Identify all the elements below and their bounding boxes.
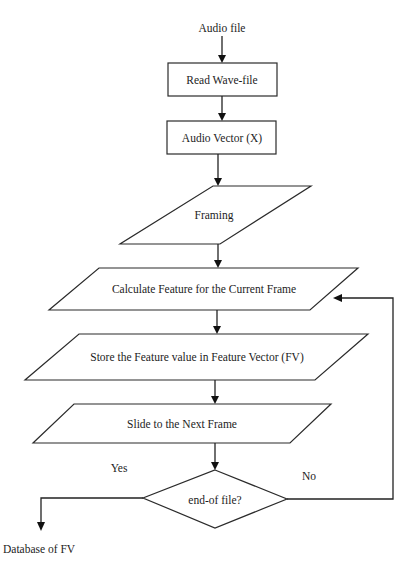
end-label-database-of-fv: Database of FV: [3, 542, 75, 556]
connector-audio-vector-to-framing: [214, 154, 222, 186]
node-label-audio-vector: Audio Vector (X): [182, 131, 262, 145]
connector-yes-to-database: [37, 498, 143, 531]
branch-label-yes: Yes: [111, 461, 128, 475]
connector-start-to-read-wave: [218, 36, 226, 63]
connector-store-to-slide: [211, 380, 219, 404]
flowchart-canvas: Audio file Read Wave-file Audio Vector (…: [0, 0, 413, 565]
connector-read-wave-to-audio-vector: [218, 96, 226, 121]
node-label-framing: Framing: [195, 208, 234, 222]
node-label-calculate-feature: Calculate Feature for the Current Frame: [112, 282, 296, 296]
connector-calculate-to-store: [213, 310, 221, 334]
node-label-end-of-file: end-of file?: [188, 493, 241, 507]
branch-label-no: No: [302, 469, 316, 483]
connector-slide-to-decision: [211, 443, 219, 470]
connector-framing-to-calculate: [214, 244, 222, 268]
node-label-slide-next-frame: Slide to the Next Frame: [127, 417, 237, 431]
start-label-audio-file: Audio file: [199, 21, 246, 35]
node-label-read-wave-file: Read Wave-file: [186, 73, 257, 87]
node-label-store-feature: Store the Feature value in Feature Vecto…: [90, 350, 303, 364]
